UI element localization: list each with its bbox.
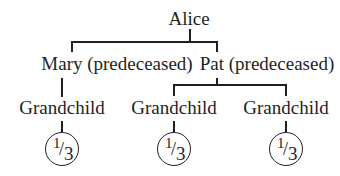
grandchild-node-1: Grandchild bbox=[19, 98, 104, 118]
grandchild-node-3: Grandchild bbox=[243, 98, 328, 118]
connector-gc3-drop bbox=[285, 84, 287, 96]
share-circle-2: 1 / 3 bbox=[157, 132, 191, 166]
share-fraction: 1 / 3 bbox=[46, 133, 78, 165]
share-fraction: 1 / 3 bbox=[158, 133, 190, 165]
share-circle-3: 1 / 3 bbox=[269, 132, 303, 166]
connector-gc2-drop bbox=[173, 84, 175, 96]
connector-gc2-share bbox=[173, 121, 175, 132]
root-node-alice: Alice bbox=[168, 9, 209, 29]
connector-root-bar bbox=[71, 41, 217, 43]
connector-gc1-share bbox=[61, 121, 63, 132]
child-node-pat: Pat (predeceased) bbox=[200, 54, 335, 74]
connector-gc3-share bbox=[285, 121, 287, 132]
child-node-mary: Mary (predeceased) bbox=[41, 54, 192, 74]
connector-mary-stem bbox=[61, 78, 63, 97]
share-denominator: 3 bbox=[288, 143, 298, 165]
connector-pat-drop bbox=[216, 41, 218, 52]
connector-root-stem bbox=[189, 29, 191, 41]
connector-pat-bar bbox=[173, 84, 286, 86]
share-denominator: 3 bbox=[64, 143, 74, 165]
share-circle-1: 1 / 3 bbox=[45, 132, 79, 166]
connector-mary-drop bbox=[71, 41, 73, 52]
share-fraction: 1 / 3 bbox=[270, 133, 302, 165]
grandchild-node-2: Grandchild bbox=[131, 98, 216, 118]
share-denominator: 3 bbox=[176, 143, 186, 165]
